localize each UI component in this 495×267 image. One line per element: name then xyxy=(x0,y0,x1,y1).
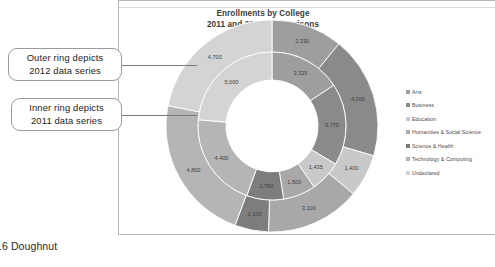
inner-ring-callout: Inner ring depicts 2011 data series xyxy=(11,98,122,131)
slice-data-label: 3,100 xyxy=(302,205,316,211)
slice-data-label: 4,000 xyxy=(351,96,365,102)
legend-swatch-icon xyxy=(406,171,410,175)
slice-data-label: 1,400 xyxy=(344,165,358,171)
slice-data-label: 3,775 xyxy=(325,122,339,128)
legend-item-label: Business xyxy=(412,102,434,108)
inner-ring-leader-line xyxy=(122,115,197,116)
legend-swatch-icon xyxy=(406,130,410,134)
slice-data-label: 4,800 xyxy=(186,167,200,173)
slice-data-label: 1,500 xyxy=(287,179,301,185)
figure-caption: 16 Doughnut xyxy=(0,240,57,252)
doughnut-chart[interactable]: Enrollments by College 2011 and 2012 Com… xyxy=(118,8,495,234)
inner-ring-callout-line2: 2011 data series xyxy=(31,115,102,128)
outer-ring-callout-line2: 2012 data series xyxy=(29,65,101,78)
legend-swatch-icon xyxy=(406,103,410,107)
legend-swatch-icon xyxy=(406,117,410,121)
legend-item[interactable]: Education xyxy=(406,113,495,124)
legend-swatch-icon xyxy=(406,90,410,94)
legend-item[interactable]: Undeclared xyxy=(406,167,495,178)
legend-item-label: Arts xyxy=(412,89,422,95)
legend-swatch-icon xyxy=(406,144,410,148)
slice-data-label: 1,700 xyxy=(259,183,273,189)
frame-border-bottom xyxy=(118,234,495,235)
legend-item-label: Science & Health xyxy=(412,143,453,149)
frame-border-top xyxy=(118,0,495,1)
inner-ring-callout-line1: Inner ring depicts xyxy=(29,102,104,115)
legend-item[interactable]: Humanities & Social Science xyxy=(406,127,495,138)
slice-data-label: 3,325 xyxy=(293,70,307,76)
outer-ring-callout-line1: Outer ring depicts xyxy=(27,52,104,65)
legend-item[interactable]: Technology & Computing xyxy=(406,154,495,165)
legend-item[interactable]: Arts xyxy=(406,86,495,97)
chart-legend[interactable]: ArtsBusinessEducationHumanities & Social… xyxy=(406,86,495,181)
legend-item[interactable]: Science & Health xyxy=(406,140,495,151)
slice-data-label: 5,000 xyxy=(224,79,238,85)
slice-data-label: 1,100 xyxy=(248,211,262,217)
doughnut-svg: 2,3304,0001,4003,1001,1004,8004,7003,325… xyxy=(166,20,378,232)
inner-ring-2011[interactable] xyxy=(198,52,346,200)
slice-data-label: 2,330 xyxy=(295,38,309,44)
doughnut-plot-area[interactable]: 2,3304,0001,4003,1001,1004,8004,7003,325… xyxy=(166,20,378,232)
outer-ring-leader-line xyxy=(122,65,197,66)
legend-item-label: Technology & Computing xyxy=(412,156,472,162)
legend-swatch-icon xyxy=(406,157,410,161)
slice-data-label: 4,400 xyxy=(214,155,228,161)
slice-data-label: 4,700 xyxy=(208,54,222,60)
legend-item-label: Undeclared xyxy=(412,170,440,176)
legend-item[interactable]: Business xyxy=(406,100,495,111)
outer-ring-callout: Outer ring depicts 2012 data series xyxy=(8,48,122,81)
slice-data-label: 1,435 xyxy=(309,164,323,170)
legend-item-label: Education xyxy=(412,116,436,122)
legend-item-label: Humanities & Social Science xyxy=(412,129,481,135)
chart-title-main: Enrollments by College xyxy=(118,9,408,20)
